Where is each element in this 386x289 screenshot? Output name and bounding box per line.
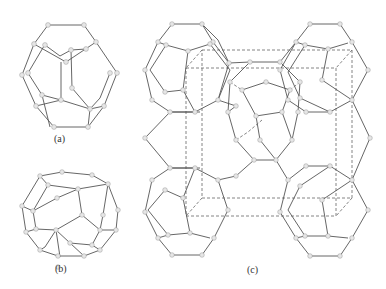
panel-a-label: (a)	[54, 133, 65, 144]
cage-structures-diagram	[0, 0, 386, 289]
panel-a-dodecahedron	[20, 23, 120, 130]
panel-c-unit-cell	[143, 22, 373, 259]
figure: (a) (b) (c)	[0, 0, 386, 289]
panel-c-label: (c)	[247, 264, 258, 275]
panel-b-label: (b)	[55, 263, 67, 274]
panel-b-tetrakaidecahedron	[20, 170, 121, 270]
